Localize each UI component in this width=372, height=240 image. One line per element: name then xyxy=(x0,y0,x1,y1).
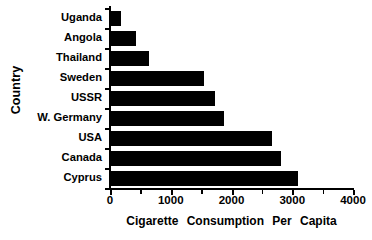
bar-slot xyxy=(110,68,353,88)
bar[interactable] xyxy=(110,171,298,186)
plot-area xyxy=(110,8,353,188)
bar-slot xyxy=(110,48,353,68)
bar[interactable] xyxy=(110,11,121,26)
y-axis-tick-label: USSR xyxy=(20,88,106,108)
bar[interactable] xyxy=(110,131,272,146)
bar-slot xyxy=(110,88,353,108)
bars-layer xyxy=(110,8,353,188)
bar[interactable] xyxy=(110,111,224,126)
bar-slot xyxy=(110,108,353,128)
bar-slot xyxy=(110,128,353,148)
y-axis-tick-label: Cyprus xyxy=(20,168,106,188)
y-axis-tick-label: Thailand xyxy=(20,48,106,68)
y-axis-tick-label: USA xyxy=(20,128,106,148)
x-axis-title: Cigarette Consumption Per Capita xyxy=(110,214,353,228)
bar[interactable] xyxy=(110,51,149,66)
x-axis-minor-tick xyxy=(140,190,142,194)
y-axis-tick-label: W. Germany xyxy=(20,108,106,128)
bar[interactable] xyxy=(110,71,204,86)
x-axis-tick-label: 0 xyxy=(107,195,113,207)
bar-chart: Country UgandaAngolaThailandSwedenUSSRW.… xyxy=(0,0,372,240)
y-axis-tick-label: Sweden xyxy=(20,68,106,88)
x-axis-tick-labels: 01000200030004000 xyxy=(110,195,353,209)
y-axis-tick-label: Uganda xyxy=(20,8,106,28)
x-axis-tick-label: 1000 xyxy=(158,195,184,207)
y-axis-tick-label: Canada xyxy=(20,148,106,168)
x-axis-tick-label: 3000 xyxy=(279,195,305,207)
bar-slot xyxy=(110,28,353,48)
x-axis-minor-tick xyxy=(262,190,264,194)
bar-slot xyxy=(110,148,353,168)
x-axis-tick-label: 4000 xyxy=(340,195,366,207)
x-axis-minor-tick xyxy=(323,190,325,194)
bar[interactable] xyxy=(110,151,281,166)
x-axis-tick-label: 2000 xyxy=(219,195,245,207)
bar[interactable] xyxy=(110,91,215,106)
y-axis-tick-label: Angola xyxy=(20,28,106,48)
x-axis-minor-tick xyxy=(201,190,203,194)
bar[interactable] xyxy=(110,31,136,46)
bar-slot xyxy=(110,168,353,188)
bar-slot xyxy=(110,8,353,28)
y-axis-tick-labels: UgandaAngolaThailandSwedenUSSRW. Germany… xyxy=(20,8,106,188)
